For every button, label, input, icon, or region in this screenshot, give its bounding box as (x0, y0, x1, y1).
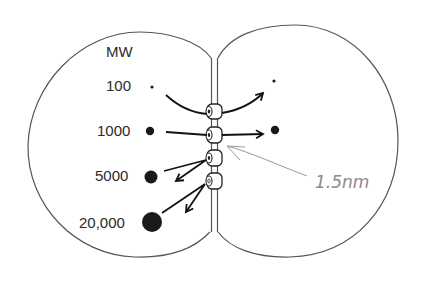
arrow-1000-exit (222, 134, 263, 135)
molecule-100-left (150, 85, 153, 88)
molecule-1000-right (271, 126, 279, 134)
mw-label-5000: 5000 (95, 167, 128, 184)
arrow-1000-passes (166, 132, 207, 135)
right-cell-outline (218, 25, 398, 257)
mw-axis-label: MW (106, 43, 133, 60)
molecule-1000-left (146, 127, 154, 135)
channel-3 (206, 150, 222, 166)
molecule-20000-left (142, 212, 162, 232)
arrow-100-exit (222, 93, 263, 113)
channel-4 (206, 173, 222, 189)
mw-label-1000: 1000 (97, 122, 130, 139)
arrow-5000-blocked (164, 160, 206, 181)
arrow-100-passes (166, 95, 207, 114)
mw-label-100: 100 (106, 77, 131, 94)
channel-1 (206, 104, 222, 119)
channel-2 (206, 127, 222, 143)
gap-junction-diagram: MW 100 1000 5000 20,000 1.5nm (0, 0, 430, 283)
annotation-pointer (227, 146, 307, 176)
mw-label-20000: 20,000 (79, 214, 125, 231)
molecule-5000-left (145, 171, 158, 184)
arrow-20000-blocked (162, 184, 205, 213)
molecule-100-right (272, 79, 275, 82)
annotation-channel-diameter: 1.5nm (315, 172, 369, 192)
